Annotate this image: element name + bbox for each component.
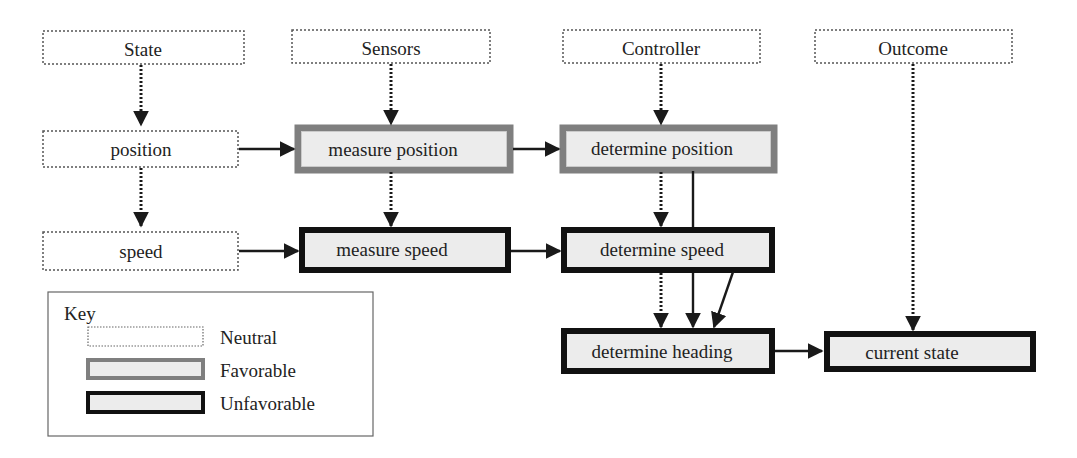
column-header-controller: Controller: [563, 30, 760, 63]
node-determine-heading: determine heading: [564, 331, 772, 371]
node-position: position: [43, 131, 238, 167]
column-header-outcome: Outcome: [815, 30, 1012, 63]
legend-swatch-favorable: [88, 360, 203, 378]
node-determine-speed: determine speed: [564, 230, 772, 270]
column-header-state: State: [43, 31, 244, 64]
legend-item-neutral: Neutral: [88, 327, 277, 348]
node-current-state: current state: [827, 334, 1033, 369]
diagram-canvas: State Sensors Controller Outcome positio…: [0, 0, 1077, 458]
node-measure-position-label: measure position: [328, 139, 458, 160]
node-determine-position-label: determine position: [591, 138, 733, 159]
node-determine-heading-label: determine heading: [592, 341, 733, 362]
node-measure-speed-label: measure speed: [336, 239, 448, 260]
legend-item-unfavorable: Unfavorable: [88, 393, 315, 414]
legend-label-neutral: Neutral: [220, 327, 277, 348]
legend-item-favorable: Favorable: [88, 360, 296, 381]
legend-label-unfavorable: Unfavorable: [220, 393, 315, 414]
legend-swatch-unfavorable: [88, 393, 203, 412]
node-measure-speed: measure speed: [302, 230, 508, 270]
column-header-sensors: Sensors: [292, 30, 490, 63]
node-measure-position: measure position: [298, 128, 510, 170]
node-speed: speed: [43, 232, 238, 270]
column-header-controller-label: Controller: [622, 38, 701, 59]
node-determine-speed-label: determine speed: [600, 239, 724, 260]
legend: Key Neutral Favorable Unfavorable: [48, 292, 373, 436]
node-current-state-label: current state: [865, 342, 958, 363]
legend-label-favorable: Favorable: [220, 360, 296, 381]
column-header-sensors-label: Sensors: [361, 38, 420, 59]
column-header-outcome-label: Outcome: [878, 38, 948, 59]
edge-determine-speed-to-determine-heading-diagonal: [714, 272, 733, 327]
column-header-state-label: State: [124, 39, 162, 60]
dotted-edges: [141, 64, 913, 330]
node-speed-label: speed: [119, 241, 163, 262]
legend-title: Key: [64, 303, 96, 324]
node-position-label: position: [110, 139, 172, 160]
legend-swatch-neutral: [88, 327, 203, 346]
node-determine-position: determine position: [563, 128, 774, 170]
